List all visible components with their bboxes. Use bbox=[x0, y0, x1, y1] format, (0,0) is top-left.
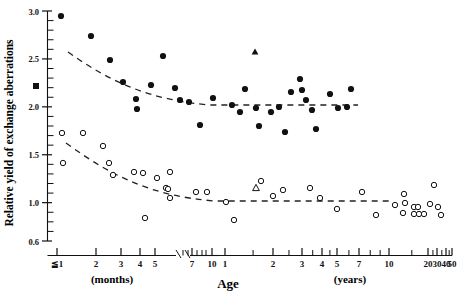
data-point-open-circle bbox=[415, 204, 420, 209]
y-tick-label: 0.6 bbox=[28, 237, 39, 247]
x-axis-tick-labels: ≦123457101234571020304050 bbox=[51, 259, 457, 269]
data-point-open-circle bbox=[280, 187, 285, 192]
x-tick-label: 7 bbox=[190, 259, 195, 269]
x-tick-label: 10 bbox=[385, 259, 395, 269]
data-point-open-circle bbox=[60, 160, 65, 165]
data-point-filled-circle bbox=[177, 97, 183, 103]
data-point-open-circle bbox=[427, 201, 432, 206]
data-point-filled-circle bbox=[120, 79, 126, 85]
y-tick-label: 2.0 bbox=[28, 102, 39, 112]
x-tick-label: 10 bbox=[208, 259, 218, 269]
data-point-filled-triangle bbox=[252, 48, 259, 54]
data-point-open-circle bbox=[154, 175, 159, 180]
y-tick-label: 1.5 bbox=[28, 150, 39, 160]
data-point-open-circle bbox=[204, 189, 209, 194]
data-point-filled-circle bbox=[88, 33, 94, 39]
data-point-open-circle bbox=[142, 215, 147, 220]
data-point-open-circle bbox=[400, 210, 405, 215]
y-tick-label: 3.0 bbox=[28, 7, 39, 17]
y-tick-label: 1.0 bbox=[28, 198, 39, 208]
data-point-open-circle bbox=[317, 195, 322, 200]
figure-container: Relative yield of exchange aberrations 3… bbox=[0, 0, 461, 291]
data-point-open-circle bbox=[59, 130, 64, 135]
data-point-open-circle bbox=[223, 199, 228, 204]
data-point-filled-circle bbox=[237, 109, 243, 115]
x-tick-label: 4 bbox=[320, 259, 325, 269]
x-axis-label: Age bbox=[217, 276, 239, 291]
y-axis-label: Relative yield of exchange aberrations bbox=[3, 39, 16, 227]
data-point-open-circle bbox=[106, 160, 111, 165]
data-point-filled-circle bbox=[242, 86, 248, 92]
data-point-filled-circle bbox=[229, 102, 235, 108]
x-group-label-years: (years) bbox=[334, 273, 367, 286]
data-point-open-circle bbox=[110, 172, 115, 177]
data-point-open-circle bbox=[131, 169, 136, 174]
data-point-filled-circle bbox=[210, 95, 216, 101]
data-point-open-circle bbox=[421, 211, 426, 216]
data-point-open-circle bbox=[373, 212, 378, 217]
data-point-open-circle bbox=[307, 185, 312, 190]
data-point-filled-circle bbox=[297, 76, 303, 82]
x-tick-label: 7 bbox=[357, 259, 362, 269]
data-points bbox=[33, 13, 444, 223]
data-point-open-circle bbox=[231, 217, 236, 222]
x-group-label-months: (months) bbox=[91, 273, 134, 286]
data-point-filled-circle bbox=[282, 129, 288, 135]
x-tick-label: 1 bbox=[223, 259, 228, 269]
data-point-filled-circle bbox=[348, 86, 354, 92]
data-point-open-triangle bbox=[253, 184, 260, 190]
x-tick-label: 50 bbox=[448, 259, 458, 269]
data-point-filled-circle bbox=[256, 123, 262, 129]
data-point-filled-circle bbox=[58, 13, 64, 19]
data-point-open-circle bbox=[80, 130, 85, 135]
x-tick-label: 4 bbox=[138, 259, 143, 269]
x-tick-label: 2 bbox=[271, 259, 276, 269]
data-point-filled-circle bbox=[327, 91, 333, 97]
x-tick-label: 2 bbox=[94, 259, 99, 269]
x-axis-ticks bbox=[57, 248, 452, 256]
data-point-filled-circle bbox=[107, 57, 113, 63]
data-point-filled-circle bbox=[313, 126, 319, 132]
data-point-filled-circle bbox=[133, 96, 139, 102]
x-tick-label: 3 bbox=[119, 259, 124, 269]
data-point-filled-circle bbox=[148, 82, 154, 88]
data-point-open-circle bbox=[392, 202, 397, 207]
y-axis-tick-labels: 3.02.52.01.51.00.6 bbox=[28, 7, 39, 247]
data-point-filled-circle bbox=[268, 109, 274, 115]
data-point-open-circle bbox=[167, 195, 172, 200]
data-point-filled-square bbox=[33, 83, 39, 89]
y-tick-label: 2.5 bbox=[28, 54, 39, 64]
data-point-open-circle bbox=[258, 178, 263, 183]
data-point-open-circle bbox=[193, 189, 198, 194]
fit-curves bbox=[66, 52, 392, 201]
data-point-filled-circle bbox=[197, 122, 203, 128]
data-point-filled-circle bbox=[186, 99, 192, 105]
x-tick-label: 5 bbox=[153, 259, 158, 269]
data-point-filled-circle bbox=[303, 97, 309, 103]
data-point-filled-circle bbox=[253, 105, 259, 111]
data-point-filled-circle bbox=[344, 104, 350, 110]
data-point-open-circle bbox=[140, 170, 145, 175]
data-point-filled-circle bbox=[299, 87, 305, 93]
data-point-open-circle bbox=[401, 191, 406, 196]
data-point-filled-circle bbox=[172, 85, 178, 91]
data-point-open-circle bbox=[165, 186, 170, 191]
x-tick-label: 5 bbox=[335, 259, 340, 269]
x-tick-label: 3 bbox=[300, 259, 305, 269]
data-point-filled-circle bbox=[134, 106, 140, 112]
data-point-filled-circle bbox=[160, 53, 166, 59]
fit-curve bbox=[66, 143, 392, 201]
data-point-open-circle bbox=[167, 169, 172, 174]
data-point-open-circle bbox=[402, 200, 407, 205]
data-point-open-circle bbox=[435, 204, 440, 209]
data-point-open-circle bbox=[100, 143, 105, 148]
data-point-open-circle bbox=[359, 189, 364, 194]
data-point-filled-circle bbox=[335, 105, 341, 111]
x-tick-label: ≦1 bbox=[51, 259, 64, 269]
data-point-open-circle bbox=[334, 206, 339, 211]
data-point-filled-circle bbox=[276, 104, 282, 110]
data-point-filled-circle bbox=[309, 107, 315, 113]
scatter-plot: Relative yield of exchange aberrations 3… bbox=[0, 0, 461, 291]
data-point-filled-circle bbox=[288, 89, 294, 95]
data-point-open-circle bbox=[431, 182, 436, 187]
